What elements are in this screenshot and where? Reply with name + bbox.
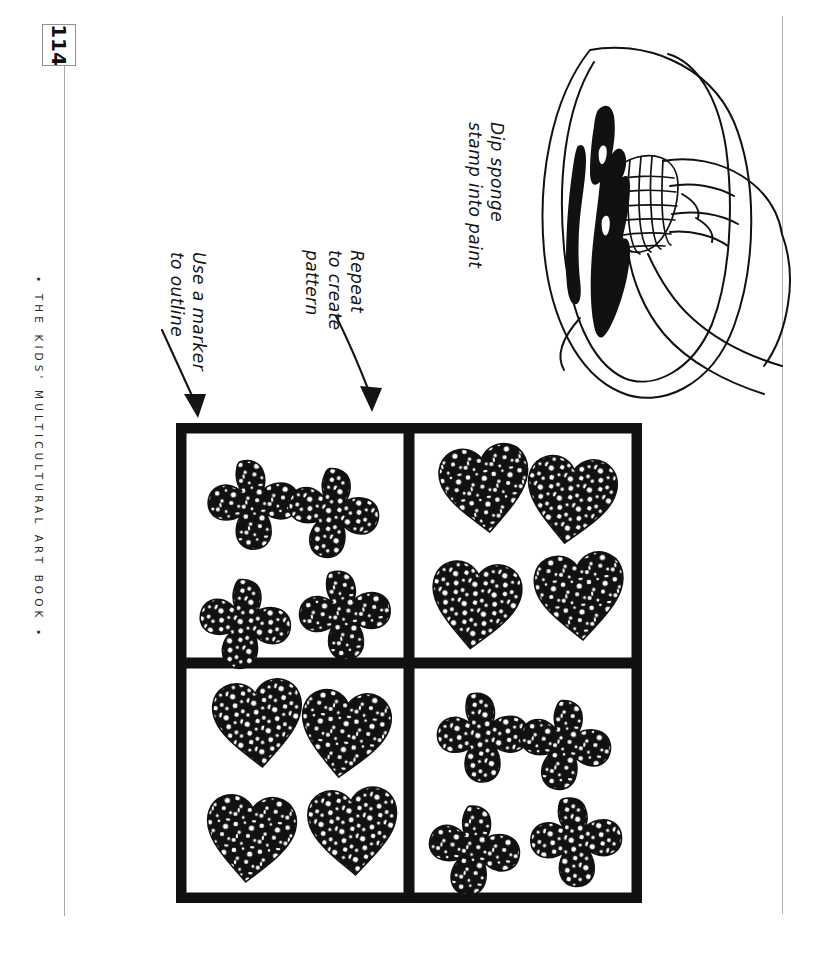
annotation-dip-sponge-line-1: Dip sponge: [486, 122, 508, 268]
quadrant-top-right: [428, 440, 629, 652]
page-number-box: 114: [42, 24, 76, 66]
book-page: 114 • THE KIDS' MULTICULTURAL ART BOOK •…: [0, 0, 813, 972]
artwork-stamped-pattern-grid: [176, 423, 642, 903]
annotation-dip-sponge: Dip sponge stamp into paint: [463, 122, 508, 268]
page-number: 114: [49, 24, 69, 66]
arrow-use-marker-icon: [158, 326, 218, 422]
running-footer: • THE KIDS' MULTICULTURAL ART BOOK •: [34, 276, 45, 639]
quadrant-bottom-right: [424, 689, 626, 900]
quadrant-bottom-left: [203, 676, 401, 885]
arrow-repeat-pattern-icon: [330, 312, 400, 420]
quadrant-top-left: [196, 456, 396, 673]
page-rule-left: [64, 66, 65, 916]
annotation-repeat-pattern-line-3: pattern: [301, 250, 323, 330]
illustration-dip-sponge: [520, 18, 810, 418]
annotation-dip-sponge-line-2: stamp into paint: [463, 122, 485, 268]
